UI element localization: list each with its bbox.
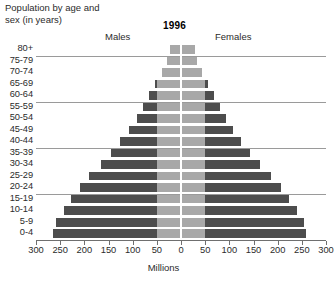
bar-segment-female-inner (181, 114, 205, 123)
age-group-label: 15-19 (10, 193, 33, 203)
bar-segment-female-inner (181, 45, 195, 54)
x-axis-tick-label: 200 (270, 245, 286, 255)
bar-segment-female-inner (181, 126, 205, 135)
x-axis-title: Millions (0, 262, 327, 273)
bar-segment-female-outer (205, 91, 214, 100)
bar-segment-female-outer (205, 160, 260, 169)
bar-segment-male-inner (167, 57, 181, 66)
bar-segment-male-inner (157, 195, 181, 204)
bar-segment-female-outer (205, 80, 207, 89)
bar-segment-male-outer (56, 218, 157, 227)
age-group-label: 70-74 (10, 66, 33, 76)
bar-segment-female-inner (181, 57, 197, 66)
x-axis-tick-label: 150 (101, 245, 117, 255)
bar-segment-male-inner (157, 80, 181, 89)
bar-segment-female-inner (181, 103, 205, 112)
bar-segment-male-inner (157, 218, 181, 227)
center-divider (180, 44, 182, 240)
bar-segment-male-outer (71, 195, 157, 204)
age-group-label: 60-64 (10, 89, 33, 99)
bar-segment-female-inner (181, 91, 205, 100)
bar-segment-male-outer (120, 137, 157, 146)
bar-segment-female-inner (181, 137, 205, 146)
bar-segment-male-outer (53, 229, 156, 238)
x-axis-tick-label: 150 (246, 245, 262, 255)
bar-segment-female-inner (181, 172, 205, 181)
age-group-label: 10-14 (10, 204, 33, 214)
age-group-label: 20-24 (10, 181, 33, 191)
bar-segment-male-inner (157, 137, 181, 146)
x-axis-tick-label: 200 (77, 245, 93, 255)
bar-segment-female-outer (205, 114, 226, 123)
bar-segment-male-inner (157, 126, 181, 135)
x-axis-tick-label: 50 (200, 245, 210, 255)
bar-segment-female-outer (205, 183, 280, 192)
age-group-label: 55-59 (10, 101, 33, 111)
bar-segment-male-inner (157, 149, 181, 158)
bar-segment-female-inner (181, 183, 205, 192)
bar-segment-male-inner (157, 206, 181, 215)
bar-segment-female-outer (205, 103, 220, 112)
age-group-label: 30-34 (10, 158, 33, 168)
age-group-label: 5-9 (20, 216, 33, 226)
bar-segment-male-outer (80, 183, 156, 192)
bar-segment-male-outer (137, 114, 157, 123)
age-group-label: 35-39 (10, 147, 33, 157)
x-axis-tick-label: 100 (125, 245, 141, 255)
age-group-label: 75-79 (10, 55, 33, 65)
bar-segment-female-inner (181, 68, 202, 77)
bar-segment-male-outer (155, 80, 156, 89)
chart-title: Population by age and sex (in years) (5, 2, 100, 25)
bar-segment-male-inner (157, 114, 181, 123)
x-axis-tick-label: 0 (178, 245, 183, 255)
year-annotation: 1996 (163, 20, 186, 31)
x-axis (36, 240, 326, 241)
bar-segment-male-inner (157, 229, 181, 238)
age-group-label: 80+ (18, 43, 33, 53)
bar-segment-female-inner (181, 80, 205, 89)
age-group-label: 65-69 (10, 78, 33, 88)
bar-segment-female-inner (181, 195, 205, 204)
x-axis-tick-labels: 30025020015010050050100150200250300 (36, 245, 326, 257)
bar-segment-male-outer (89, 172, 157, 181)
age-group-label: 45-49 (10, 124, 33, 134)
bar-segment-female-inner (181, 149, 205, 158)
bar-segment-male-outer (111, 149, 157, 158)
bar-segment-male-outer (143, 103, 157, 112)
bar-segment-male-inner (162, 68, 181, 77)
bar-segment-female-inner (181, 206, 205, 215)
bar-segment-male-inner (157, 91, 181, 100)
bar-segment-male-inner (157, 103, 181, 112)
bar-segment-female-outer (205, 172, 271, 181)
bar-segment-male-outer (149, 91, 157, 100)
bar-segment-female-inner (181, 160, 205, 169)
age-group-label: 50-54 (10, 112, 33, 122)
bar-segment-female-inner (181, 218, 205, 227)
x-axis-tick-label: 100 (222, 245, 238, 255)
bar-segment-female-inner (181, 229, 205, 238)
x-axis-tick-label: 250 (294, 245, 310, 255)
bar-segment-female-outer (205, 137, 241, 146)
plot-area: 80+75-7970-7465-6960-6455-5950-5445-4940… (36, 44, 326, 240)
age-group-label: 25-29 (10, 170, 33, 180)
x-axis-tick-label: 250 (52, 245, 68, 255)
bar-segment-female-outer (205, 195, 289, 204)
bar-segment-male-inner (157, 160, 181, 169)
x-axis-tick-label: 300 (28, 245, 44, 255)
bar-segment-female-outer (205, 206, 297, 215)
females-label: Females (215, 31, 251, 42)
bar-segment-male-outer (129, 126, 157, 135)
bar-segment-female-outer (205, 149, 250, 158)
males-label: Males (105, 31, 130, 42)
x-axis-tick-label: 300 (318, 245, 334, 255)
bar-segment-male-outer (64, 206, 157, 215)
age-group-label: 0-4 (20, 227, 33, 237)
x-axis-tick-label: 50 (152, 245, 162, 255)
bar-segment-female-outer (205, 126, 233, 135)
bar-segment-female-outer (205, 229, 306, 238)
age-group-label: 40-44 (10, 135, 33, 145)
bar-segment-female-outer (205, 218, 304, 227)
bar-segment-male-outer (101, 160, 157, 169)
bar-segment-male-inner (157, 183, 181, 192)
